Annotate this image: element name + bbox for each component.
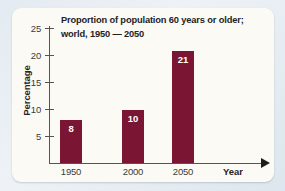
chart-card: Proportion of population 60 years or old… bbox=[12, 8, 274, 182]
bar-chart-plot: Proportion of population 60 years or old… bbox=[12, 8, 274, 182]
figure-root: Proportion of population 60 years or old… bbox=[0, 0, 285, 191]
x-tick-label-2050: 2050 bbox=[160, 166, 206, 177]
bar-value-1950: 8 bbox=[60, 123, 82, 134]
bar-1950[interactable]: 8 bbox=[60, 120, 82, 163]
bars-layer: 8 10 21 bbox=[12, 8, 274, 163]
x-tick-label-1950: 1950 bbox=[48, 166, 94, 177]
x-axis-line bbox=[49, 163, 263, 164]
bar-group-1950: 8 bbox=[60, 8, 82, 163]
bar-value-2000: 10 bbox=[122, 113, 144, 124]
x-axis-title: Year bbox=[210, 166, 256, 177]
bar-value-2050: 21 bbox=[172, 54, 194, 65]
bar-group-2000: 10 bbox=[122, 8, 144, 163]
x-tick-label-2000: 2000 bbox=[110, 166, 156, 177]
bar-2000[interactable]: 10 bbox=[122, 110, 144, 163]
bar-2050[interactable]: 21 bbox=[172, 51, 194, 163]
bar-group-2050: 21 bbox=[172, 8, 194, 163]
